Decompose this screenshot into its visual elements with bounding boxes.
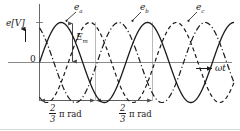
leader-dot-ec: [187, 20, 189, 22]
x-axis-label: ωt: [215, 64, 226, 73]
origin-label: 0: [30, 55, 36, 64]
fraction-denominator: 3: [49, 114, 56, 123]
fraction-numerator: 2: [119, 104, 126, 113]
dimension-unit: π rad: [129, 109, 152, 119]
fraction-two-thirds: 2 3: [49, 104, 56, 123]
curve-label-ec: ec: [196, 3, 204, 14]
dimension-unit: π rad: [59, 109, 82, 119]
curve-label-eb: eb: [140, 3, 149, 14]
leader-dot-ea: [65, 20, 67, 22]
amplitude-label: Em: [76, 33, 88, 44]
fraction-numerator: 2: [49, 104, 56, 113]
fraction-denominator: 3: [119, 114, 126, 123]
leader-dot-eb: [131, 20, 133, 22]
three-phase-waveform-figure: ea eb ec e[V] 0 ωt Em 2 3 π rad 2 3 π ra…: [0, 0, 240, 131]
fraction-two-thirds: 2 3: [119, 104, 126, 123]
y-axis-label: e[V]: [6, 19, 25, 28]
phase-dimension-label-1: 2 3 π rad: [49, 104, 82, 123]
phase-dimension-label-2: 2 3 π rad: [119, 104, 152, 123]
curve-label-ea: ea: [74, 3, 83, 14]
